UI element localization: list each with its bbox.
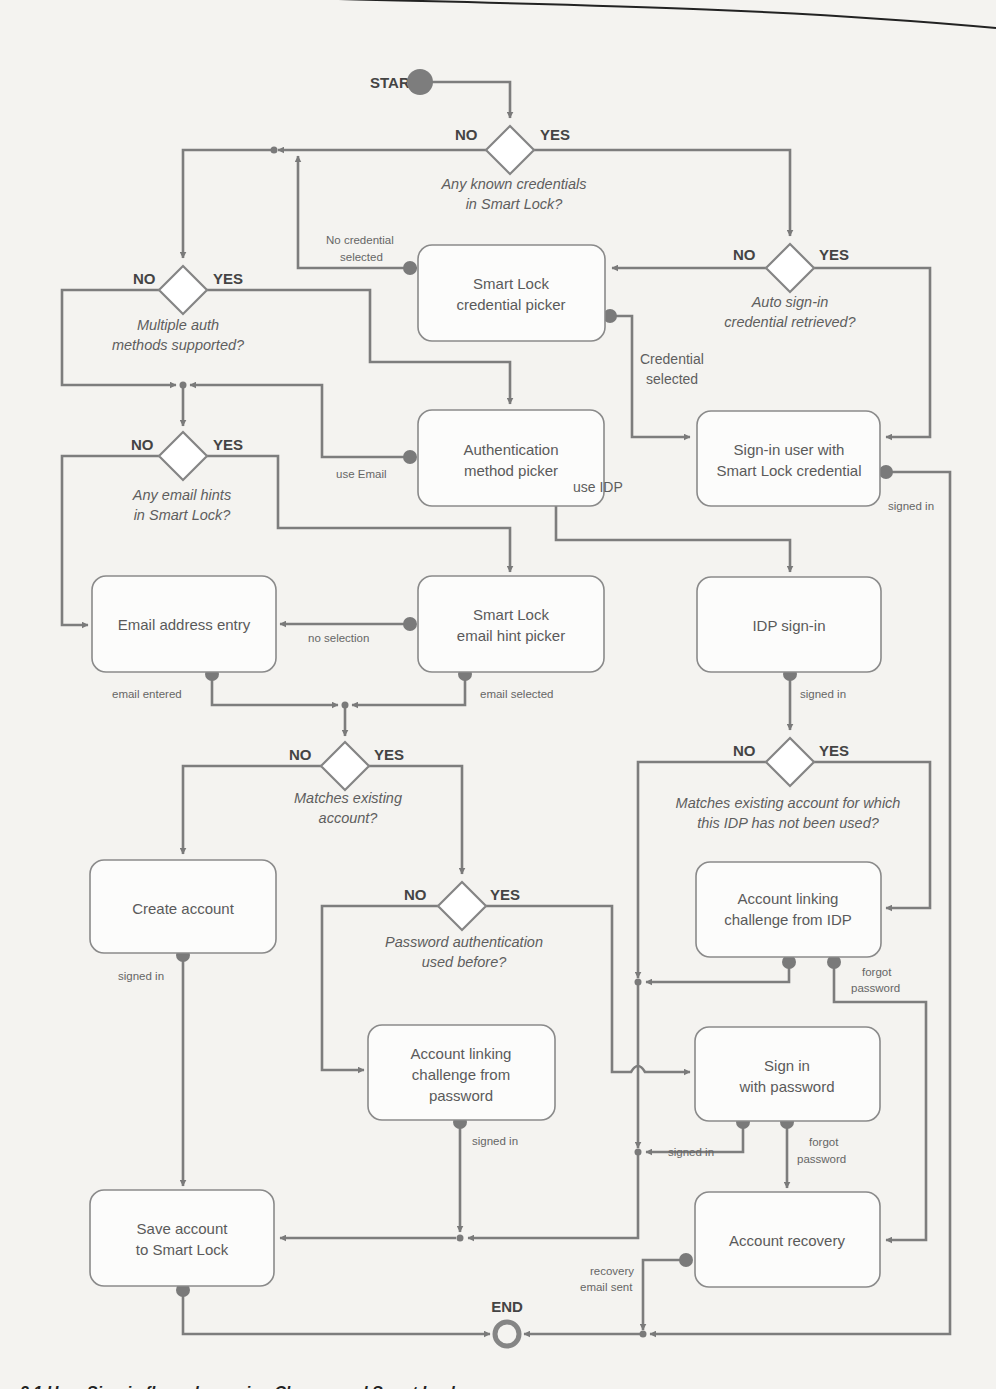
svg-text:forgot: forgot xyxy=(862,966,892,978)
end-terminal: END xyxy=(491,1298,523,1346)
node-credential-picker: Smart Lock credential picker xyxy=(418,245,605,341)
svg-text:password: password xyxy=(851,982,900,994)
svg-text:NO: NO xyxy=(455,126,478,143)
svg-text:Save account: Save account xyxy=(137,1220,229,1237)
svg-text:Matches existing: Matches existing xyxy=(294,790,402,806)
svg-text:Account linking: Account linking xyxy=(738,890,839,907)
svg-text:email sent: email sent xyxy=(580,1281,633,1293)
svg-text:no selection: no selection xyxy=(308,632,369,644)
node-email-hint-picker: Smart Lock email hint picker xyxy=(418,576,604,672)
svg-text:use IDP: use IDP xyxy=(573,479,623,495)
svg-text:Matches existing account for w: Matches existing account for which xyxy=(676,795,901,811)
svg-text:password: password xyxy=(797,1153,846,1165)
svg-text:email hint picker: email hint picker xyxy=(457,627,565,644)
svg-text:Sign in: Sign in xyxy=(764,1057,810,1074)
svg-text:signed in: signed in xyxy=(118,970,164,982)
svg-text:used before?: used before? xyxy=(422,954,508,970)
page-edge xyxy=(300,0,996,28)
svg-text:Auto sign-in: Auto sign-in xyxy=(751,294,829,310)
svg-text:YES: YES xyxy=(540,126,570,143)
svg-text:selected: selected xyxy=(340,251,383,263)
svg-text:email selected: email selected xyxy=(480,688,554,700)
svg-text:YES: YES xyxy=(490,886,520,903)
svg-text:selected: selected xyxy=(646,371,698,387)
svg-text:YES: YES xyxy=(213,270,243,287)
decision-matches-account: NO YES Matches existing account? xyxy=(289,742,404,826)
decision-known-credentials: NO YES Any known credentials in Smart Lo… xyxy=(440,126,586,212)
svg-text:NO: NO xyxy=(131,436,154,453)
svg-text:account?: account? xyxy=(319,810,379,826)
svg-text:Smart Lock: Smart Lock xyxy=(473,606,549,623)
decision-multiple-auth: NO YES Multiple auth methods supported? xyxy=(112,266,245,353)
svg-text:email entered: email entered xyxy=(112,688,182,700)
svg-text:Authentication: Authentication xyxy=(463,441,558,458)
svg-text:Email address entry: Email address entry xyxy=(118,616,251,633)
svg-text:NO: NO xyxy=(289,746,312,763)
decision-auto-signin: NO YES Auto sign-in credential retrieved… xyxy=(724,244,856,330)
svg-text:Sign-in user with: Sign-in user with xyxy=(734,441,845,458)
svg-text:No credential: No credential xyxy=(326,234,394,246)
svg-text:signed in: signed in xyxy=(668,1146,714,1158)
svg-text:NO: NO xyxy=(133,270,156,287)
svg-text:forgot: forgot xyxy=(809,1136,839,1148)
node-linking-password: Account linking challenge from password xyxy=(368,1025,555,1120)
svg-text:use Email: use Email xyxy=(336,468,387,480)
svg-text:NO: NO xyxy=(733,246,756,263)
svg-text:recovery: recovery xyxy=(590,1265,634,1277)
decision-password-used: NO YES Password authentication used befo… xyxy=(385,882,543,970)
svg-text:challenge from IDP: challenge from IDP xyxy=(724,911,852,928)
svg-text:signed in: signed in xyxy=(888,500,934,512)
svg-text:method picker: method picker xyxy=(464,462,558,479)
svg-text:Create account: Create account xyxy=(132,900,235,917)
svg-text:credential retrieved?: credential retrieved? xyxy=(724,314,856,330)
node-account-recovery: Account recovery xyxy=(695,1192,880,1287)
svg-text:YES: YES xyxy=(819,246,849,263)
svg-text:challenge from: challenge from xyxy=(412,1066,510,1083)
start-circle-icon xyxy=(407,69,433,95)
svg-text:in Smart Lock?: in Smart Lock? xyxy=(466,196,564,212)
node-signin-password: Sign in with password xyxy=(695,1027,880,1121)
svg-text:Smart Lock credential: Smart Lock credential xyxy=(716,462,861,479)
svg-text:YES: YES xyxy=(213,436,243,453)
svg-text:Multiple auth: Multiple auth xyxy=(137,317,219,333)
flowchart: START END NO YES Any known credentials i… xyxy=(0,0,996,1389)
svg-text:password: password xyxy=(429,1087,493,1104)
svg-text:methods supported?: methods supported? xyxy=(112,337,245,353)
svg-text:with password: with password xyxy=(738,1078,834,1095)
start-terminal: START xyxy=(370,69,433,95)
svg-text:credential picker: credential picker xyxy=(456,296,565,313)
node-idp-signin: IDP sign-in xyxy=(697,577,881,672)
svg-text:Account recovery: Account recovery xyxy=(729,1232,845,1249)
svg-text:Credential: Credential xyxy=(640,351,704,367)
svg-text:IDP sign-in: IDP sign-in xyxy=(752,617,825,634)
svg-text:YES: YES xyxy=(374,746,404,763)
svg-text:signed in: signed in xyxy=(472,1135,518,1147)
figure-caption: 2.1 User Sign-in flow when using Chrome … xyxy=(19,1384,460,1389)
svg-text:YES: YES xyxy=(819,742,849,759)
svg-text:Any email hints: Any email hints xyxy=(132,487,231,503)
svg-text:in Smart Lock?: in Smart Lock? xyxy=(134,507,232,523)
node-signin-smartlock: Sign-in user with Smart Lock credential xyxy=(697,411,880,506)
svg-text:NO: NO xyxy=(404,886,427,903)
decision-idp-match: NO YES Matches existing account for whic… xyxy=(676,738,901,831)
svg-text:Password authentication: Password authentication xyxy=(385,934,543,950)
svg-text:Account linking: Account linking xyxy=(411,1045,512,1062)
node-save-account: Save account to Smart Lock xyxy=(90,1190,274,1286)
svg-text:signed in: signed in xyxy=(800,688,846,700)
svg-text:to Smart Lock: to Smart Lock xyxy=(136,1241,229,1258)
svg-text:Any known credentials: Any known credentials xyxy=(440,176,586,192)
svg-text:NO: NO xyxy=(733,742,756,759)
book-page: START END NO YES Any known credentials i… xyxy=(0,0,996,1389)
node-linking-idp: Account linking challenge from IDP xyxy=(696,862,881,957)
node-create-account: Create account xyxy=(90,860,276,953)
svg-text:Smart Lock: Smart Lock xyxy=(473,275,549,292)
end-label: END xyxy=(491,1298,523,1315)
end-circle-icon xyxy=(495,1322,519,1346)
decision-email-hints: NO YES Any email hints in Smart Lock? xyxy=(131,432,243,523)
svg-text:this IDP has not been used?: this IDP has not been used? xyxy=(697,815,880,831)
node-email-entry: Email address entry xyxy=(92,576,276,672)
